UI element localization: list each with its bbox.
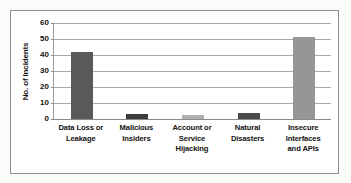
- y-axis-tick-label: 0: [29, 115, 49, 123]
- x-axis-category-label-line: Data Loss or: [53, 123, 109, 134]
- y-axis-tick-label: 10: [29, 99, 49, 107]
- y-axis-tick-label: 60: [29, 19, 49, 27]
- x-axis-category-label-line: Natural: [220, 123, 276, 134]
- x-axis-category-label: Account orServiceHijacking: [164, 123, 220, 155]
- figure-border: No. of Incidents 0102030405060 Data Loss…: [10, 10, 339, 174]
- y-axis-tick-labels: 0102030405060: [29, 19, 49, 119]
- x-axis-category-label-line: Insecure: [275, 123, 331, 134]
- x-axis-category-label-line: Account or: [164, 123, 220, 134]
- x-axis-category-label: InsecureInterfacesand APIs: [275, 123, 331, 155]
- bar: [71, 52, 93, 119]
- x-axis-category-label: MaliciousInsiders: [109, 123, 165, 144]
- x-axis-category-label-line: Leakage: [53, 134, 109, 145]
- x-axis-category-label-line: Malicious: [109, 123, 165, 134]
- x-axis-category-label-line: Hijacking: [164, 144, 220, 155]
- bars-layer: [54, 23, 331, 119]
- y-axis-tick-label: 30: [29, 67, 49, 75]
- bar: [293, 37, 315, 119]
- gridline: [54, 119, 331, 120]
- y-axis-tick-label: 50: [29, 35, 49, 43]
- x-axis-category-label-line: Disasters: [220, 134, 276, 145]
- x-axis-category-labels: Data Loss orLeakageMaliciousInsidersAcco…: [53, 123, 331, 173]
- y-axis-tick-label: 20: [29, 83, 49, 91]
- y-axis-tick-mark: [51, 119, 54, 120]
- x-axis-category-label-line: Interfaces: [275, 134, 331, 145]
- y-axis-tick-label: 40: [29, 51, 49, 59]
- x-axis-category-label: NaturalDisasters: [220, 123, 276, 144]
- bar: [238, 113, 260, 119]
- bar-chart: No. of Incidents 0102030405060 Data Loss…: [11, 11, 340, 175]
- x-axis-category-label: Data Loss orLeakage: [53, 123, 109, 144]
- x-axis-category-label-line: and APIs: [275, 144, 331, 155]
- bar: [182, 115, 204, 119]
- x-axis-category-label-line: Insiders: [109, 134, 165, 145]
- x-axis-category-label-line: Service: [164, 134, 220, 145]
- bar: [126, 114, 148, 119]
- plot-area: [53, 23, 331, 119]
